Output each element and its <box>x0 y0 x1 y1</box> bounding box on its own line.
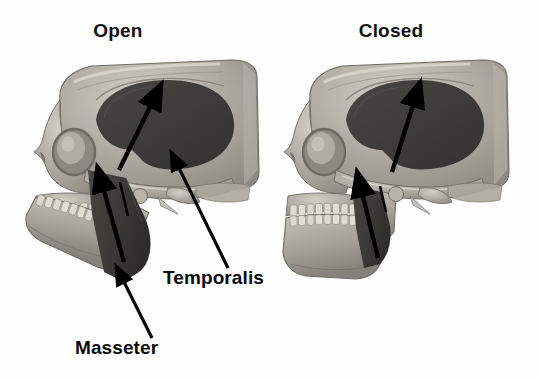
jaw-muscle-diagram: Open Closed Temporalis Masseter <box>0 0 539 378</box>
label-masseter: Masseter <box>75 337 158 359</box>
panel-title-open: Open <box>0 20 236 42</box>
skull-illustration-canvas <box>0 0 539 378</box>
skull-open <box>18 60 259 279</box>
label-temporalis: Temporalis <box>163 267 264 289</box>
condyle-closed <box>389 187 404 202</box>
skull-closed <box>283 60 509 279</box>
callout-masseter-leader <box>123 280 152 338</box>
panel-title-closed: Closed <box>300 20 482 42</box>
